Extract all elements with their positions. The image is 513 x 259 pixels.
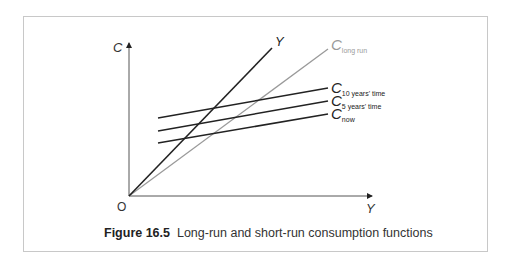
figure-caption: Figure 16.5 Long-run and short-run consu… (104, 226, 433, 240)
c-10-years-line (158, 88, 328, 118)
y-line (129, 48, 272, 196)
y-line-label: Y (275, 34, 285, 49)
c-long-run-line (129, 49, 328, 196)
c-long-run-label: Clong run (331, 36, 367, 55)
x-axis-label: Y (366, 201, 376, 216)
figure-number: Figure 16.5 (104, 226, 170, 240)
origin-label: O (117, 200, 126, 214)
c-now-line (158, 114, 328, 143)
figure-title: Long-run and short-run consumption funct… (177, 226, 433, 240)
c-5-years-line (158, 101, 328, 131)
y-axis-label: C (113, 40, 123, 55)
consumption-diagram: C Y O Y Clong run C10 years' time C5 yea… (0, 0, 513, 259)
